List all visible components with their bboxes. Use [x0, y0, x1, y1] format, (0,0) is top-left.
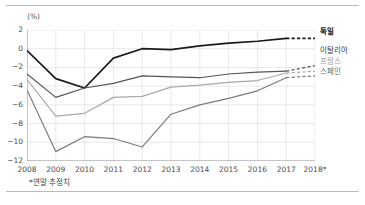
chart-footnote: *연말 추정치 [29, 176, 70, 187]
legend-item-france: 프랑스 [320, 57, 341, 66]
chart-figure: (%) 20−2−4−6−8−10−12 2008200920102011201… [0, 0, 365, 205]
y-axis-tick-label: −4 [1, 82, 23, 90]
y-axis-tick-label: −10 [1, 138, 23, 146]
legend-item-germany: 독일 [320, 27, 334, 36]
divider-top [6, 5, 359, 6]
y-axis-unit-label: (%) [27, 12, 40, 21]
y-axis-tick-label: 0 [1, 45, 23, 53]
y-axis-tick-label: −12 [1, 157, 23, 165]
y-axis-tick-label: −8 [1, 120, 23, 128]
legend-item-italy: 이탈리아 [320, 46, 348, 55]
y-axis-tick-label: 2 [1, 26, 23, 34]
divider-bottom [6, 191, 359, 192]
x-axis-tick-label: 2018* [298, 166, 332, 174]
y-axis-tick-label: −6 [1, 101, 23, 109]
plot-area [27, 30, 315, 161]
y-axis-tick-label: −2 [1, 63, 23, 71]
legend-item-spain: 스페인 [320, 67, 341, 76]
chart-canvas [27, 30, 315, 161]
